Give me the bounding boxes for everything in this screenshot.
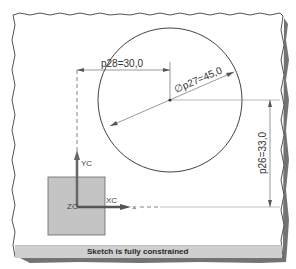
xc-axis-label: XC	[106, 196, 117, 205]
sketch-canvas[interactable]: YC XC ZC × p28=30,0 ∅p27=45,0 p26=33,0	[0, 0, 296, 269]
yc-axis-label: YC	[81, 159, 92, 168]
zc-axis-label: ZC	[67, 202, 78, 211]
svg-text:p28=30,0: p28=30,0	[101, 58, 143, 69]
point-marker-icon[interactable]: ×	[132, 203, 137, 212]
svg-text:p26=33,0: p26=33,0	[257, 132, 268, 174]
status-message: Sketch is fully constrained	[87, 246, 188, 258]
status-bar: Sketch is fully constrained	[15, 245, 282, 258]
